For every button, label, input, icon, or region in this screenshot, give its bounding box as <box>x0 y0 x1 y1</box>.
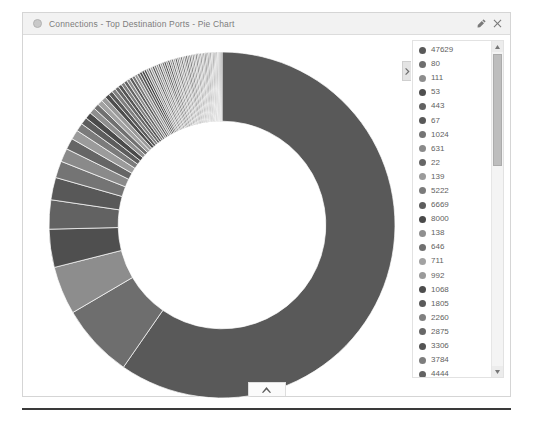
legend-item[interactable]: 711 <box>413 254 490 268</box>
chevron-right-icon <box>405 68 410 75</box>
legend-item-label: 992 <box>431 272 444 280</box>
legend-color-dot <box>419 286 426 293</box>
legend-item[interactable]: 67 <box>413 113 490 127</box>
legend-item-label: 1805 <box>431 300 449 308</box>
close-icon <box>493 19 502 28</box>
legend-item-label: 3784 <box>431 356 449 364</box>
pie-chart-icon <box>33 19 42 28</box>
legend-item[interactable]: 2260 <box>413 311 490 325</box>
legend-item[interactable]: 2875 <box>413 325 490 339</box>
legend-item-label: 47629 <box>431 46 453 54</box>
page-canvas: Connections - Top Destination Ports - Pi… <box>0 0 533 421</box>
legend-item-label: 67 <box>431 117 440 125</box>
legend-color-dot <box>419 202 426 209</box>
legend-item-label: 8000 <box>431 215 449 223</box>
legend-color-dot <box>419 159 426 166</box>
legend-color-dot <box>419 216 426 223</box>
page-divider-rule <box>22 408 511 410</box>
legend-item[interactable]: 138 <box>413 226 490 240</box>
legend-color-dot <box>419 75 426 82</box>
legend-item[interactable]: 3784 <box>413 353 490 367</box>
legend-item-label: 1068 <box>431 286 449 294</box>
legend-color-dot <box>419 187 426 194</box>
legend-item[interactable]: 53 <box>413 85 490 99</box>
legend-color-dot <box>419 61 426 68</box>
legend-color-dot <box>419 230 426 237</box>
legend-item[interactable]: 631 <box>413 142 490 156</box>
legend-color-dot <box>419 343 426 350</box>
legend-color-dot <box>419 117 426 124</box>
legend-color-dot <box>419 173 426 180</box>
pie-chart-widget: Connections - Top Destination Ports - Pi… <box>22 12 511 397</box>
legend-item-label: 2875 <box>431 328 449 336</box>
legend-item-label: 6669 <box>431 201 449 209</box>
legend-item[interactable]: 3306 <box>413 339 490 353</box>
legend-color-dot <box>419 328 426 335</box>
legend-collapse-handle[interactable] <box>402 61 411 81</box>
legend-color-dot <box>419 131 426 138</box>
legend-color-dot <box>419 357 426 364</box>
legend-item[interactable]: 111 <box>413 71 490 85</box>
legend-item-label: 80 <box>431 60 440 68</box>
legend-item-label: 3306 <box>431 342 449 350</box>
legend-color-dot <box>419 371 426 377</box>
legend-scrollbar[interactable] <box>491 41 503 377</box>
legend-item-label: 53 <box>431 88 440 96</box>
legend-scroll-up-button[interactable] <box>492 41 503 52</box>
legend-item-label: 631 <box>431 145 444 153</box>
donut-slice-group[interactable] <box>49 52 395 398</box>
close-button[interactable] <box>493 19 502 28</box>
legend-item[interactable]: 443 <box>413 99 490 113</box>
legend-item[interactable]: 4444 <box>413 367 490 377</box>
legend-color-dot <box>419 300 426 307</box>
widget-title: Connections - Top Destination Ports - Pi… <box>49 19 234 29</box>
legend-item[interactable]: 5222 <box>413 184 490 198</box>
legend-item[interactable]: 6669 <box>413 198 490 212</box>
legend-item-list[interactable]: 4762980111534436710246312213952226669800… <box>413 43 490 377</box>
legend-item-label: 139 <box>431 173 444 181</box>
edit-button[interactable] <box>477 19 486 28</box>
legend-item-label: 4444 <box>431 370 449 377</box>
legend-item-label: 711 <box>431 257 444 265</box>
legend-item[interactable]: 992 <box>413 269 490 283</box>
donut-slice[interactable] <box>221 52 222 121</box>
legend-item[interactable]: 22 <box>413 156 490 170</box>
legend-item-label: 1024 <box>431 131 449 139</box>
legend-item[interactable]: 1024 <box>413 128 490 142</box>
legend-scrollbar-thumb[interactable] <box>493 54 502 166</box>
legend-color-dot <box>419 145 426 152</box>
bottom-collapse-tab[interactable] <box>248 382 286 396</box>
pencil-icon <box>477 19 486 28</box>
legend-color-dot <box>419 244 426 251</box>
legend-item[interactable]: 47629 <box>413 43 490 57</box>
legend-item[interactable]: 80 <box>413 57 490 71</box>
chevron-up-icon <box>262 387 271 393</box>
legend-color-dot <box>419 103 426 110</box>
legend-color-dot <box>419 314 426 321</box>
legend-item-label: 22 <box>431 159 440 167</box>
legend-item[interactable]: 646 <box>413 240 490 254</box>
scroll-up-arrow-icon <box>495 45 500 49</box>
legend-color-dot <box>419 258 426 265</box>
scroll-down-arrow-icon <box>495 370 500 374</box>
legend-item-label: 443 <box>431 102 444 110</box>
donut-chart-svg[interactable] <box>23 35 423 398</box>
legend-item-label: 111 <box>431 74 443 82</box>
widget-titlebar: Connections - Top Destination Ports - Pi… <box>23 13 510 35</box>
legend-item[interactable]: 8000 <box>413 212 490 226</box>
legend-color-dot <box>419 272 426 279</box>
legend-color-dot <box>419 47 426 54</box>
legend-item-label: 646 <box>431 243 444 251</box>
legend-color-dot <box>419 89 426 96</box>
donut-chart[interactable] <box>23 35 423 398</box>
legend-item[interactable]: 1805 <box>413 297 490 311</box>
legend-item[interactable]: 1068 <box>413 283 490 297</box>
legend-item[interactable]: 139 <box>413 170 490 184</box>
legend-scroll-down-button[interactable] <box>492 366 503 377</box>
legend-item-label: 2260 <box>431 314 449 322</box>
legend-item-label: 5222 <box>431 187 449 195</box>
chart-legend[interactable]: 4762980111534436710246312213952226669800… <box>412 40 504 378</box>
legend-item-label: 138 <box>431 229 444 237</box>
chart-body: 4762980111534436710246312213952226669800… <box>23 35 510 396</box>
widget-controls <box>477 19 502 28</box>
